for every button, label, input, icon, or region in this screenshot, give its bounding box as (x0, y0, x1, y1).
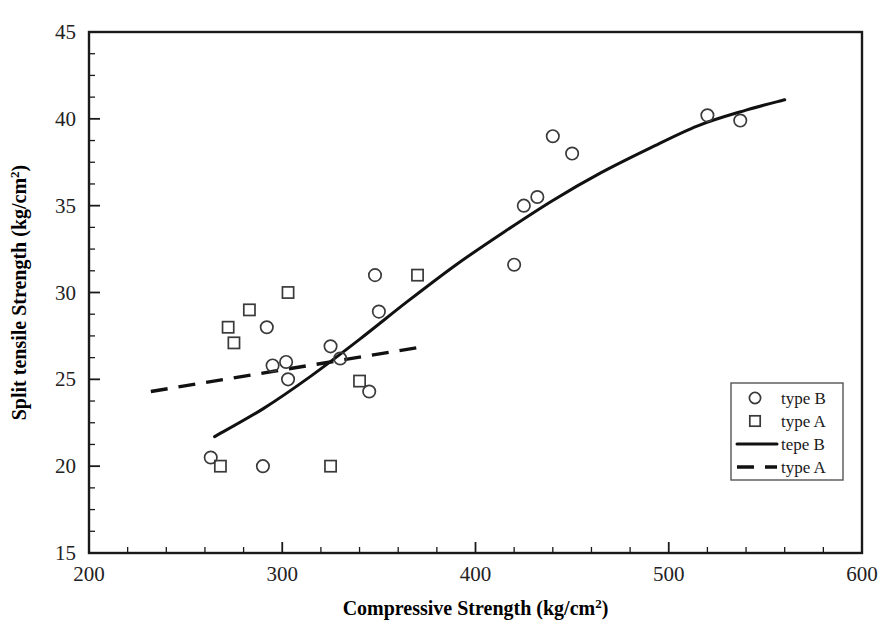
data-point-square (412, 270, 423, 281)
data-point-circle (531, 191, 543, 203)
y-axis-title: Split tensile Strength (kg/cm2) (7, 165, 31, 421)
legend[interactable]: type Btype Atepe Btype A (731, 383, 843, 480)
data-point-circle (734, 114, 746, 126)
data-point-circle (566, 147, 578, 159)
y-axis-title-tail: ) (8, 165, 31, 172)
x-tick-label: 200 (73, 562, 105, 586)
data-point-circle (373, 305, 385, 317)
x-tick-label: 600 (846, 562, 878, 586)
data-point-square (282, 287, 293, 298)
y-tick-label: 30 (55, 281, 76, 305)
data-point-circle (518, 199, 530, 211)
legend-label: type B (781, 389, 826, 408)
fit-curve-solid (215, 100, 785, 437)
data-point-square (325, 461, 336, 472)
y-tick-label: 45 (55, 20, 76, 44)
x-axis-title: Compressive Strength (kg/cm2) (343, 596, 609, 620)
data-point-circle (324, 340, 336, 352)
y-axis-title-base: Split tensile Strength (kg/cm (8, 178, 31, 421)
fit-curve-layer (151, 100, 785, 437)
data-point-circle (547, 130, 559, 142)
data-point-square (244, 304, 255, 315)
legend-label: type A (781, 412, 827, 431)
x-tick-label: 500 (653, 562, 685, 586)
data-point-circle (369, 269, 381, 281)
data-point-square (228, 337, 239, 348)
data-point-circle (282, 373, 294, 385)
data-point-circle (701, 109, 713, 121)
x-axis-title-base: Compressive Strength (kg/cm (343, 597, 596, 620)
x-tick-label: 300 (267, 562, 299, 586)
data-marker-layer (205, 109, 747, 472)
y-tick-label: 35 (55, 194, 76, 218)
data-point-circle (261, 321, 273, 333)
data-point-circle (508, 259, 520, 271)
chart-figure: 20030040050060015202530354045Compressive… (0, 0, 893, 638)
y-tick-label: 25 (55, 367, 76, 391)
data-point-square (354, 375, 365, 386)
y-tick-label: 20 (55, 454, 76, 478)
scatter-plot: 20030040050060015202530354045Compressive… (0, 0, 893, 638)
y-tick-label: 40 (55, 107, 76, 131)
x-axis-title-tail: ) (602, 597, 609, 620)
legend-label: type A (781, 458, 827, 477)
data-point-circle (280, 356, 292, 368)
legend-label: tepe B (781, 435, 825, 454)
data-point-square (215, 461, 226, 472)
x-tick-label: 400 (460, 562, 492, 586)
data-point-circle (257, 460, 269, 472)
data-point-square (223, 322, 234, 333)
y-tick-label: 15 (55, 541, 76, 565)
